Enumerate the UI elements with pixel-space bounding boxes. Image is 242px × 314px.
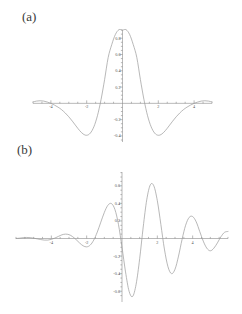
- plot-b-svg: -4-224 -0.6-0.4-0.20.20.40.6: [0, 160, 242, 310]
- y-tick-label: 0.4: [115, 201, 121, 206]
- y-tick-labels-a: -0.4-0.20.20.40.60.8: [114, 36, 122, 139]
- y-tick-label: 0.4: [115, 68, 121, 73]
- x-tick-label: -4: [49, 104, 53, 109]
- y-tick-label: -0.4: [114, 133, 122, 138]
- y-tick-label: 0.6: [115, 52, 120, 57]
- y-tick-label: 0.8: [115, 36, 120, 41]
- figure-container: (a) -4-224 -0.4-0.20.20.40.60.8 (b) -4-2…: [0, 0, 242, 314]
- x-tick-label: 2: [156, 240, 158, 245]
- y-tick-group-b: [119, 173, 122, 296]
- y-tick-label: -0.2: [114, 117, 121, 122]
- plot-b-axes: -4-224 -0.6-0.4-0.20.20.40.6: [16, 172, 228, 302]
- plot-a-axes: -4-224 -0.4-0.20.20.40.60.8: [33, 30, 212, 142]
- x-tick-label: 2: [157, 104, 159, 109]
- y-tick-label: 0.2: [115, 85, 120, 90]
- y-tick-label: -0.6: [113, 289, 120, 294]
- x-tick-label: 4: [192, 240, 195, 245]
- y-tick-label: 0.6: [115, 183, 120, 188]
- plot-a-svg: -4-224 -0.4-0.20.20.40.60.8: [0, 20, 242, 145]
- panel-label-b: (b): [17, 142, 32, 158]
- y-tick-label: -0.4: [113, 271, 121, 276]
- x-tick-label: 4: [193, 104, 196, 109]
- plot-panel-a: -4-224 -0.4-0.20.20.40.60.8: [0, 20, 242, 145]
- plot-panel-b: -4-224 -0.6-0.4-0.20.20.40.6: [0, 160, 242, 310]
- x-tick-label: -2: [85, 240, 89, 245]
- x-tick-label: -4: [50, 240, 54, 245]
- x-tick-label: -2: [85, 104, 89, 109]
- y-tick-label: -0.2: [113, 254, 120, 259]
